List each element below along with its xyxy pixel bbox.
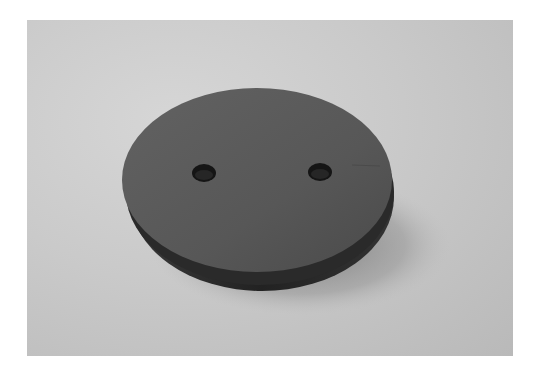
hole-right-inner (311, 169, 329, 179)
disk-top (122, 88, 392, 272)
hole-left-inner (195, 170, 213, 180)
disk-illustration (0, 0, 542, 376)
